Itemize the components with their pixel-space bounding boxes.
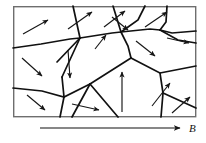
applied-field-label: B bbox=[189, 122, 196, 134]
magnetic-domain-figure: B bbox=[0, 0, 206, 143]
domain-diagram-canvas: B bbox=[0, 0, 206, 143]
applied-field-indicator: B bbox=[40, 122, 196, 134]
